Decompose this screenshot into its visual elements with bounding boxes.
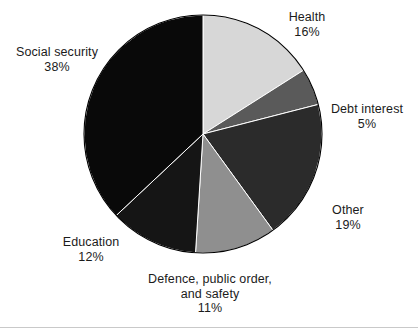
slice-label-defence: Defence, public order, and safety 11% [130, 272, 290, 316]
slice-label-other-name: Other [312, 203, 384, 218]
slice-label-other: Other 19% [312, 203, 384, 232]
slice-label-defence-name-line1: Defence, public order, [130, 272, 290, 287]
bottom-divider [0, 327, 418, 328]
slice-label-education-name: Education [42, 235, 140, 250]
slice-label-social-security: Social security 38% [2, 45, 112, 74]
slice-label-other-value: 19% [312, 218, 384, 233]
slice-label-social-security-value: 38% [2, 60, 112, 75]
slice-label-defence-value: 11% [130, 301, 290, 316]
slice-label-education-value: 12% [42, 250, 140, 265]
slice-label-education: Education 12% [42, 235, 140, 264]
slice-label-debt-interest-name: Debt interest [318, 102, 416, 117]
slice-label-defence-name-line2: and safety [130, 287, 290, 302]
slice-label-health: Health 16% [252, 10, 362, 39]
slice-label-debt-interest-value: 5% [318, 117, 416, 132]
pie-chart-figure: Health 16% Debt interest 5% Other 19% De… [0, 0, 418, 330]
slice-label-debt-interest: Debt interest 5% [318, 102, 416, 131]
pie-slice-group [84, 15, 322, 253]
slice-label-health-value: 16% [252, 25, 362, 40]
pie-chart-page: Health 16% Debt interest 5% Other 19% De… [0, 0, 418, 330]
slice-label-health-name: Health [252, 10, 362, 25]
slice-label-social-security-name: Social security [2, 45, 112, 60]
